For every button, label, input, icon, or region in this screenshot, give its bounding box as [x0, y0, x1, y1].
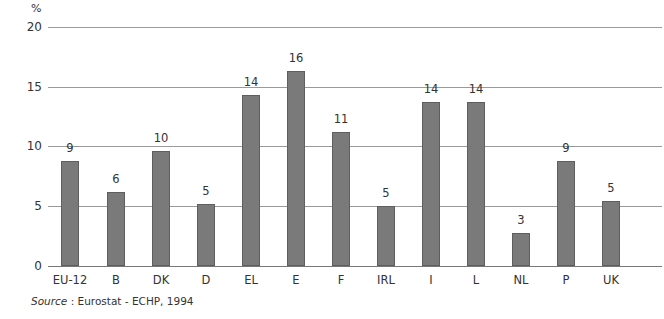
x-tick-label: L	[456, 273, 496, 287]
bar-value-label: 14	[236, 75, 266, 89]
x-tick-label: F	[321, 273, 361, 287]
y-tick: 15	[22, 80, 42, 94]
bar	[242, 95, 260, 266]
x-tick-label: IRL	[366, 273, 406, 287]
x-tick-label: E	[276, 273, 316, 287]
x-tick-label: I	[411, 273, 451, 287]
bar	[107, 192, 125, 266]
bar	[467, 102, 485, 266]
y-tick: 10	[22, 139, 42, 153]
x-tick-label: D	[186, 273, 226, 287]
y-tick: 5	[22, 199, 42, 213]
bar-value-label: 6	[101, 172, 131, 186]
y-tick: 0	[22, 259, 42, 273]
x-tick-label: DK	[141, 273, 181, 287]
gridline	[48, 27, 662, 28]
bar	[152, 151, 170, 266]
x-tick-label: B	[96, 273, 136, 287]
x-tick-label: NL	[501, 273, 541, 287]
bar-value-label: 5	[596, 181, 626, 195]
bar-value-label: 11	[326, 112, 356, 126]
bar-value-label: 5	[371, 186, 401, 200]
gridline	[48, 87, 662, 88]
bar	[422, 102, 440, 266]
x-tick-label: P	[546, 273, 586, 287]
x-axis-baseline	[48, 266, 662, 267]
bar	[61, 161, 79, 266]
bar	[287, 71, 305, 266]
bar-value-label: 9	[55, 141, 85, 155]
bar	[377, 206, 395, 266]
bar-value-label: 14	[461, 82, 491, 96]
bar-value-label: 5	[191, 184, 221, 198]
bar-value-label: 16	[281, 51, 311, 65]
bar-value-label: 14	[416, 82, 446, 96]
x-tick-label: UK	[591, 273, 631, 287]
bar	[602, 201, 620, 266]
source-note: Source : Eurostat - ECHP, 1994	[31, 295, 194, 307]
x-tick-label: EU-12	[50, 273, 90, 287]
y-axis-unit: %	[31, 2, 41, 15]
bar	[512, 233, 530, 266]
bar	[332, 132, 350, 266]
bar-value-label: 3	[506, 213, 536, 227]
bar	[197, 204, 215, 266]
bar-value-label: 9	[551, 141, 581, 155]
bar	[557, 161, 575, 266]
bar-value-label: 10	[146, 131, 176, 145]
y-tick: 20	[22, 20, 42, 34]
x-tick-label: EL	[231, 273, 271, 287]
